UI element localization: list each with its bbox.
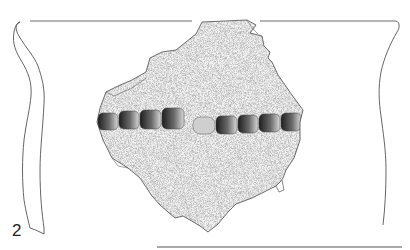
left-wall-profile [13,22,44,234]
sherd [90,15,310,240]
figure-number-label: 2 [12,222,21,239]
right-profile [379,21,399,225]
drawing-canvas [0,0,410,250]
pottery-drawing-plate: 2 [0,0,410,250]
